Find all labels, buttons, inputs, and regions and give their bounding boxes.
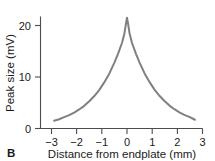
figure-panel-b: 20 10 0 −3 −2 −1 0 1 2 3 Distance from e… [0,0,215,161]
y-tick-label-10: 10 [19,71,31,83]
x-tick-label-minus3: −3 [45,136,58,148]
y-axis-title: Peak size (mV) [4,34,16,112]
peak-size-vs-distance-chart: 20 10 0 −3 −2 −1 0 1 2 3 Distance from e… [0,0,215,161]
x-axis-title: Distance from endplate (mm) [48,148,196,160]
x-axis-ticks [52,129,203,135]
panel-label: B [7,147,15,159]
x-tick-label-1: 1 [149,136,155,148]
y-axis-ticks [35,26,41,129]
x-tick-label-3: 3 [199,136,205,148]
y-tick-label-20: 20 [19,20,31,32]
x-tick-label-2: 2 [174,136,180,148]
x-tick-label-minus1: −1 [96,136,109,148]
data-curve [54,18,195,121]
y-tick-label-0: 0 [25,123,31,135]
x-tick-label-0: 0 [124,136,130,148]
x-tick-label-minus2: −2 [70,136,83,148]
